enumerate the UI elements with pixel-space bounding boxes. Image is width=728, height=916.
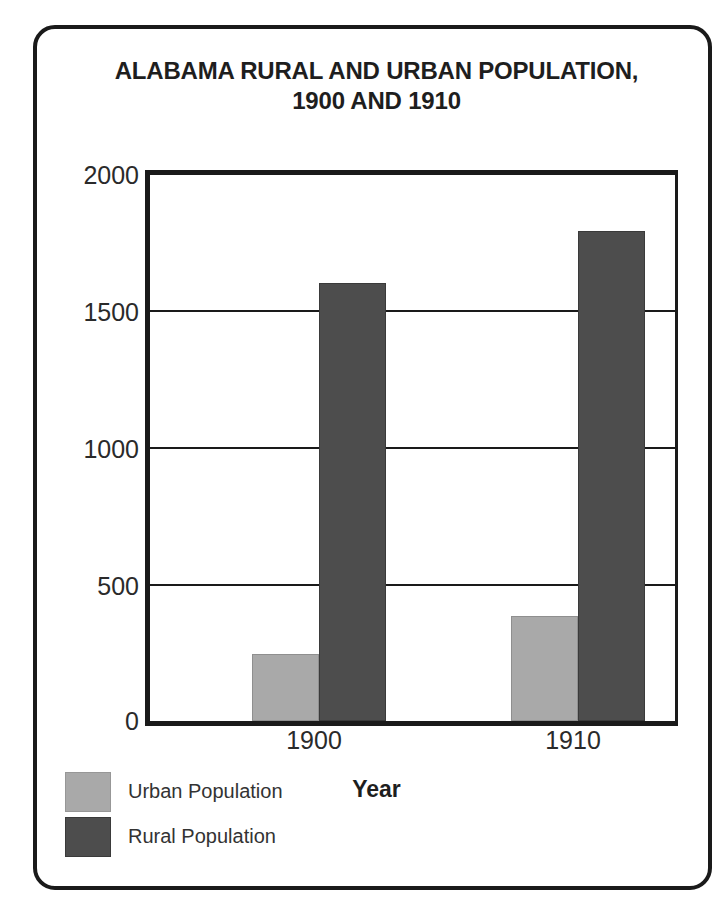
legend-swatch-urban-icon — [65, 772, 111, 812]
bar-rural-1910[interactable] — [578, 231, 645, 721]
y-tick-label-1000: 1000 — [83, 435, 139, 464]
y-tick-label-0: 0 — [125, 707, 139, 736]
figure-frame: ALABAMA RURAL AND URBAN POPULATION, 1900… — [33, 25, 712, 890]
chart-title: ALABAMA RURAL AND URBAN POPULATION, 1900… — [37, 56, 716, 116]
legend-swatch-rural-icon — [65, 817, 111, 857]
y-tick-label-2000: 2000 — [83, 161, 139, 190]
gridline-2000: 2000 — [150, 173, 675, 175]
bar-urban-1900[interactable] — [252, 654, 319, 721]
plot-area: 2000 1500 1000 500 0 — [145, 170, 678, 726]
plot-inner: 2000 1500 1000 500 0 — [150, 173, 675, 721]
bar-rural-1900[interactable] — [319, 283, 386, 721]
legend-item-rural[interactable]: Rural Population — [65, 814, 385, 859]
chart-legend: Urban Population Rural Population — [65, 769, 385, 859]
bar-urban-1910[interactable] — [511, 616, 578, 721]
x-tick-label-1910: 1910 — [545, 726, 601, 755]
legend-label-rural: Rural Population — [128, 825, 276, 848]
x-tick-label-1900: 1900 — [286, 726, 342, 755]
legend-item-urban[interactable]: Urban Population — [65, 769, 385, 814]
chart-title-line-1: ALABAMA RURAL AND URBAN POPULATION, — [37, 56, 716, 86]
y-tick-label-500: 500 — [97, 572, 139, 601]
y-tick-label-1500: 1500 — [83, 298, 139, 327]
chart-title-line-2: 1900 AND 1910 — [37, 86, 716, 116]
legend-label-urban: Urban Population — [128, 780, 283, 803]
